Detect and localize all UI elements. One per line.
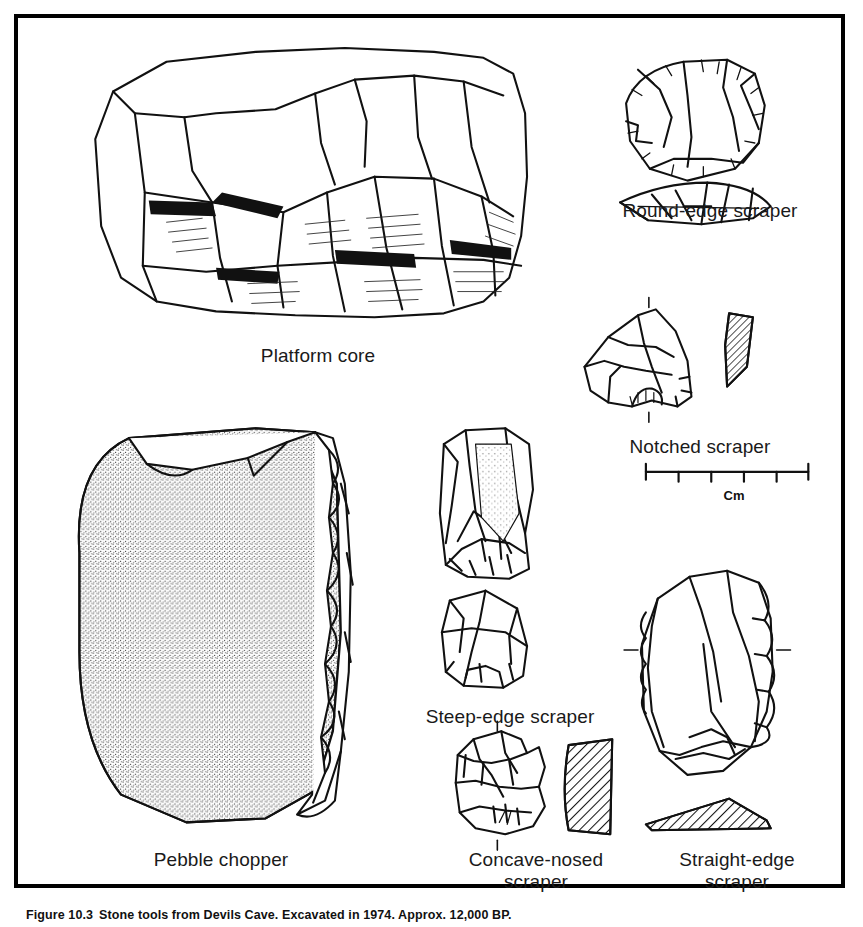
- label-platform-core: Platform core: [218, 345, 418, 367]
- artifact-concave-nosed-scraper: [456, 721, 612, 850]
- label-notched-scraper: Notched scraper: [590, 436, 810, 458]
- figure-caption-text: Stone tools from Devils Cave. Excavated …: [99, 908, 511, 922]
- label-concave-nosed-scraper: Concave-nosed scraper: [436, 849, 636, 893]
- figure-caption: Figure 10.3Stone tools from Devils Cave.…: [26, 908, 846, 922]
- artifact-platform-core: [95, 48, 527, 317]
- artifact-notched-scraper: [584, 297, 752, 422]
- artifact-pebble-chopper: [79, 428, 353, 822]
- artifact-straight-edge-scraper: [624, 571, 790, 830]
- label-steep-edge-scraper: Steep-edge scraper: [390, 706, 630, 728]
- label-pebble-chopper: Pebble chopper: [106, 849, 336, 871]
- figure-caption-number: Figure 10.3: [26, 908, 93, 922]
- scale-bar: [646, 464, 808, 482]
- scale-bar-label: Cm: [684, 488, 784, 503]
- label-round-edge-scraper: Round-edge scraper: [590, 200, 830, 222]
- label-straight-edge-scraper: Straight-edge scraper: [642, 849, 832, 893]
- artifact-steep-edge-scraper: [440, 428, 533, 687]
- figure-plate: Platform core Pebble chopper Round-edge …: [14, 14, 845, 888]
